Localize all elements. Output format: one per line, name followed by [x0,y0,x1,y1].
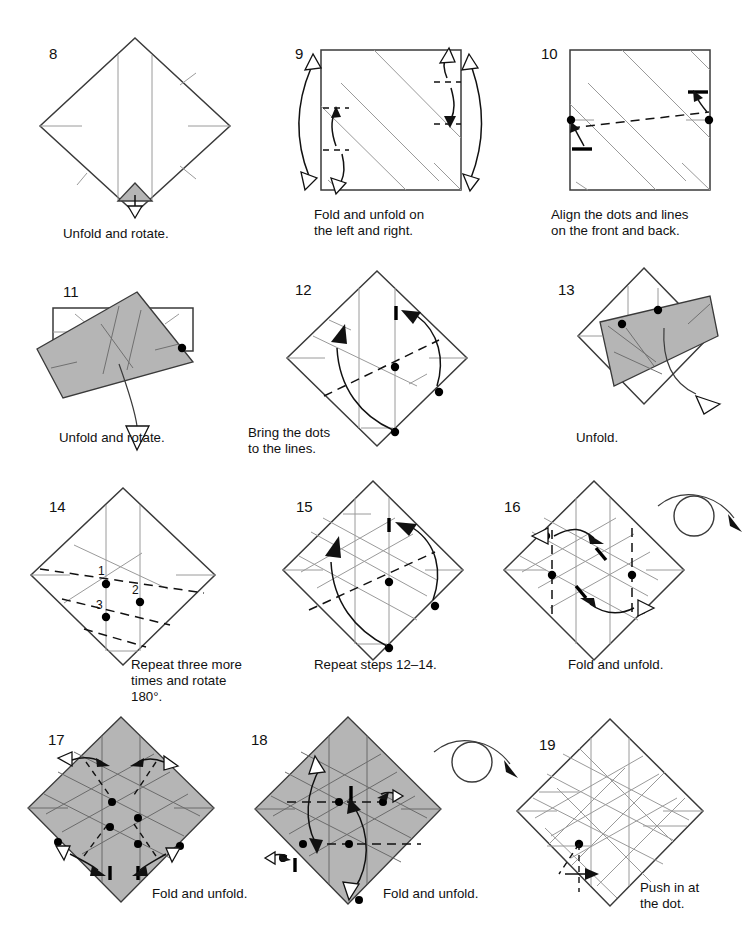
step-19: 19 [502,700,752,940]
reference-dot [628,571,636,579]
step-13-diagram [532,266,747,451]
reference-dot [654,306,662,314]
turn-over-circle [452,742,492,782]
reference-dot [705,116,713,124]
step-10-diagram [530,46,730,201]
step-8: 8 Unfold and rotate [0,0,250,255]
step-14-diagram: 1 2 3 [18,485,233,675]
step-15-caption: Repeat steps 12–14. [314,657,437,673]
step-8-caption: Unfold and rotate. [63,226,169,242]
step-14-caption: Repeat three more times and rotate 180°. [131,657,250,705]
step-9: 9 [251,0,501,255]
small-double-arrow-left [265,852,291,864]
step-11-caption: Unfold and rotate. [59,430,165,446]
step-16-caption: Fold and unfold. [568,657,663,673]
dot-label-2: 2 [132,583,139,597]
dot-label-3: 3 [96,598,103,612]
step-18: 18 [251,700,501,940]
step-13-caption: Unfold. [576,430,618,446]
reference-dot [178,344,186,352]
reference-dot [391,363,399,371]
numbered-dot-2 [136,598,144,606]
step-16-diagram [454,478,704,673]
origami-instruction-page: 8 Unfold and rotate [0,0,752,940]
step-16: 16 [502,470,752,700]
turn-over-arrowhead [728,514,742,532]
reference-dot [618,320,626,328]
step-10-caption: Align the dots and lines on the front an… [551,207,689,239]
step-17-diagram [14,714,234,914]
step-13: 13 [502,260,752,470]
step-15-diagram [267,478,482,673]
reference-dot [385,578,393,586]
step-17-caption: Fold and unfold. [152,886,247,902]
step-17: 17 [0,700,250,940]
step-9-caption: Fold and unfold on the left and right. [314,207,424,239]
reference-dot [435,388,443,396]
reference-dot [548,571,556,579]
right-fold-unfold-arrow [462,54,482,191]
left-fold-unfold-arrow [299,54,321,190]
reference-dot [431,602,439,610]
step-18-caption: Fold and unfold. [383,886,478,902]
step-11: 11 [0,260,250,470]
step-14: 14 [0,470,250,700]
numbered-dot-3 [102,613,110,621]
step-8-diagram [30,33,240,218]
step-12: 12 [251,260,501,470]
turn-over-arc [434,741,510,764]
step-10: 10 [502,0,752,255]
dot-label-1: 1 [98,564,105,578]
step-19-caption: Push in at the dot. [640,880,699,912]
step-9-diagram [279,46,479,201]
numbered-dot-1 [102,580,110,588]
step-12-caption: Bring the dots to the lines. [248,425,330,457]
paper-outline [31,488,215,665]
